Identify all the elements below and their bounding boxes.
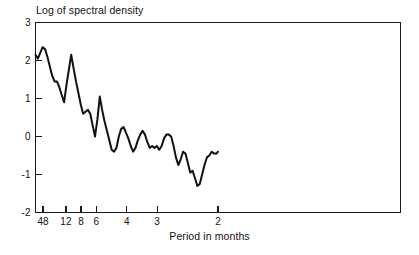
y-tick-label: -1 (22, 169, 31, 180)
x-axis-title: Period in months (0, 230, 419, 242)
data-series-group (36, 47, 219, 186)
x-tick-label: 8 (78, 216, 84, 227)
y-tick-group: -2-10123 (22, 17, 42, 218)
x-tick-group: 481286432 (38, 206, 222, 227)
y-tick-label: 3 (25, 17, 31, 28)
x-tick-label: 3 (154, 216, 160, 227)
y-tick-label: 1 (25, 93, 31, 104)
x-tick-label: 12 (60, 216, 72, 227)
data-series-line (36, 47, 219, 186)
y-tick-label: 0 (25, 131, 31, 142)
x-tick-label: 48 (38, 216, 50, 227)
x-tick-label: 2 (215, 216, 221, 227)
y-tick-label: -2 (22, 207, 31, 218)
y-tick-label: 2 (25, 55, 31, 66)
x-tick-label: 6 (94, 216, 100, 227)
y-axis-title: Log of spectral density (36, 4, 143, 16)
chart-plot-area: -2-10123 481286432 (0, 0, 419, 255)
spectral-density-figure: Log of spectral density Period in months… (0, 0, 419, 255)
x-tick-label: 4 (124, 216, 130, 227)
